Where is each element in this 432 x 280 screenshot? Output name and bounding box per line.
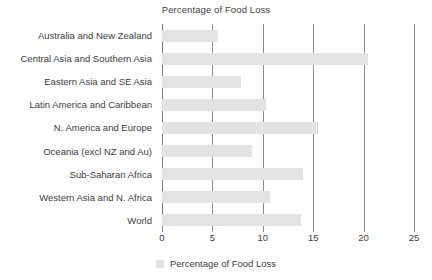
chart-title: Percentage of Food Loss — [0, 4, 432, 15]
bar — [162, 145, 252, 157]
category-label: Central Asia and Southern Asia — [0, 47, 157, 70]
category-label: Latin America and Caribbean — [0, 93, 157, 116]
bar-row — [162, 24, 414, 47]
bar-row — [162, 70, 414, 93]
bar-row — [162, 47, 414, 70]
bar-rows — [162, 24, 414, 232]
bar — [162, 99, 266, 111]
category-label: Sub-Saharan Africa — [0, 163, 157, 186]
x-tick-mark — [364, 226, 365, 231]
category-axis-labels: Australia and New Zealand Central Asia a… — [0, 24, 157, 232]
x-tick-label: 10 — [258, 232, 269, 243]
bar — [162, 53, 368, 65]
x-tick-mark — [162, 226, 163, 231]
x-tick-mark — [313, 226, 314, 231]
category-label: Western Asia and N. Africa — [0, 186, 157, 209]
x-tick-mark — [414, 226, 415, 231]
category-label: N. America and Europe — [0, 116, 157, 139]
bar — [162, 30, 218, 42]
bar-row — [162, 163, 414, 186]
chart-legend: Percentage of Food Loss — [0, 258, 432, 269]
bar — [162, 168, 303, 180]
legend-label: Percentage of Food Loss — [170, 258, 276, 269]
category-label: Australia and New Zealand — [0, 24, 157, 47]
x-tick-label: 0 — [159, 232, 164, 243]
x-tick-label: 20 — [358, 232, 369, 243]
bar — [162, 122, 318, 134]
x-tick-label: 15 — [308, 232, 319, 243]
bar-row — [162, 209, 414, 232]
bar-row — [162, 116, 414, 139]
x-tick-mark — [263, 226, 264, 231]
bar-row — [162, 140, 414, 163]
bar-row — [162, 186, 414, 209]
bar-row — [162, 93, 414, 116]
food-loss-bar-chart: Percentage of Food Loss Australia and Ne… — [0, 0, 432, 280]
x-tick-mark — [212, 226, 213, 231]
category-label: Oceania (excl NZ and Au) — [0, 140, 157, 163]
plot-area — [162, 24, 414, 232]
category-label: World — [0, 209, 157, 232]
category-label: Eastern Asia and SE Asia — [0, 70, 157, 93]
bar — [162, 76, 241, 88]
x-axis: 0510152025 — [162, 232, 414, 250]
x-tick-label: 25 — [409, 232, 420, 243]
bar — [162, 191, 270, 203]
legend-swatch-icon — [156, 260, 164, 268]
gridline — [414, 24, 415, 232]
x-tick-label: 5 — [210, 232, 215, 243]
bar — [162, 214, 301, 226]
